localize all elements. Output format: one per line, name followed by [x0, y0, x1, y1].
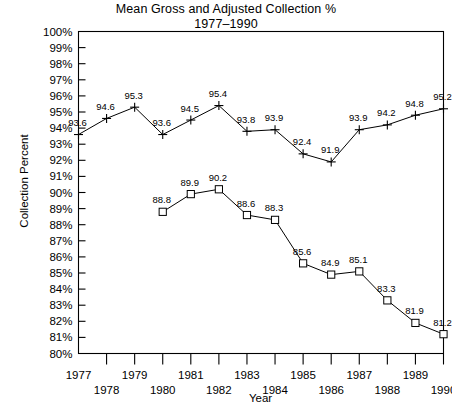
data-point-marker	[440, 331, 447, 338]
plot-frame-box	[79, 32, 444, 354]
data-point-marker	[383, 120, 392, 129]
data-point-marker	[384, 297, 391, 304]
y-tick-label: 89%	[49, 203, 72, 215]
series-1: 93.694.695.393.694.595.493.893.992.491.9…	[68, 88, 452, 166]
data-point-label: 92.4	[293, 136, 312, 147]
data-point-label: 90.2	[209, 172, 228, 183]
data-point-label: 95.3	[124, 90, 143, 101]
x-tick-label: 1981	[178, 369, 204, 381]
x-tick-label: 1983	[234, 369, 260, 381]
data-series: 93.694.695.393.694.595.493.893.992.491.9…	[68, 88, 452, 338]
data-point-marker	[300, 260, 307, 267]
x-tick-label: 1977	[66, 369, 92, 381]
data-point-label: 94.2	[377, 107, 396, 118]
y-tick-label: 84%	[49, 283, 72, 295]
x-tick-label: 1986	[318, 384, 344, 396]
data-point-label: 95.4	[209, 88, 228, 99]
y-tick-label: 97%	[49, 74, 72, 86]
plot-frame	[79, 32, 444, 354]
data-point-marker	[411, 111, 420, 120]
data-point-label: 88.8	[152, 194, 171, 205]
plot-area: 100%99%98%97%96%95%94%93%92%91%90%89%88%…	[0, 0, 452, 414]
data-point-marker	[74, 130, 83, 139]
y-tick-label: 92%	[49, 154, 72, 166]
y-tick-label: 91%	[49, 170, 72, 182]
y-tick-label: 87%	[49, 235, 72, 247]
x-tick-label: 1979	[122, 369, 148, 381]
x-tick-label: 1984	[262, 384, 288, 396]
data-point-marker	[439, 104, 448, 113]
data-point-label: 93.6	[68, 117, 87, 128]
data-point-label: 83.3	[377, 283, 396, 294]
data-point-label: 91.9	[321, 144, 340, 155]
data-point-marker	[328, 271, 335, 278]
data-point-label: 85.1	[349, 254, 368, 265]
x-tick-label: 1988	[375, 384, 401, 396]
x-tick-label: 1985	[290, 369, 316, 381]
chart-figure: Mean Gross and Adjusted Collection % 197…	[0, 0, 452, 414]
x-tick-label: 1989	[403, 369, 429, 381]
x-tick-label: 1987	[346, 369, 372, 381]
data-point-label: 93.8	[237, 114, 256, 125]
y-tick-label: 96%	[49, 90, 72, 102]
x-tick-label: 1982	[206, 384, 232, 396]
data-point-label: 88.6	[237, 198, 256, 209]
data-point-label: 81.2	[433, 317, 452, 328]
y-tick-label: 81%	[49, 331, 72, 343]
data-point-marker	[356, 268, 363, 275]
y-tick-label: 100%	[43, 26, 72, 38]
data-point-marker	[186, 116, 195, 125]
data-point-marker	[271, 216, 278, 223]
data-point-marker	[102, 114, 111, 123]
data-point-marker	[412, 319, 419, 326]
data-point-marker	[187, 191, 194, 198]
data-point-marker	[215, 186, 222, 193]
data-point-label: 85.6	[293, 246, 312, 257]
y-tick-label: 85%	[49, 267, 72, 279]
data-point-label: 93.9	[265, 112, 284, 123]
y-tick-label: 90%	[49, 187, 72, 199]
data-point-label: 94.8	[405, 98, 424, 109]
series-2: 88.889.990.288.688.385.684.985.183.381.9…	[152, 172, 451, 338]
y-tick-label: 88%	[49, 219, 72, 231]
data-point-label: 95.2	[433, 91, 452, 102]
x-axis-ticks: 1977197819791980198119821983198419851986…	[66, 354, 452, 396]
y-tick-label: 86%	[49, 251, 72, 263]
y-tick-label: 99%	[49, 42, 72, 54]
y-tick-label: 98%	[49, 58, 72, 70]
data-point-label: 93.9	[349, 112, 368, 123]
x-tick-label: 1990	[431, 384, 452, 396]
data-point-label: 94.5	[181, 103, 200, 114]
y-tick-label: 80%	[49, 348, 72, 360]
data-point-label: 94.6	[96, 101, 115, 112]
y-tick-label: 93%	[49, 138, 72, 150]
data-point-marker	[243, 211, 250, 218]
y-tick-label: 83%	[49, 299, 72, 311]
x-tick-label: 1978	[94, 384, 120, 396]
y-tick-label: 82%	[49, 315, 72, 327]
data-point-label: 88.3	[265, 202, 284, 213]
data-point-label: 84.9	[321, 257, 340, 268]
data-point-label: 93.6	[152, 117, 171, 128]
x-tick-label: 1980	[150, 384, 176, 396]
y-axis-ticks: 100%99%98%97%96%95%94%93%92%91%90%89%88%…	[43, 26, 85, 360]
data-point-marker	[159, 208, 166, 215]
data-point-label: 89.9	[181, 177, 200, 188]
data-point-label: 81.9	[405, 305, 424, 316]
